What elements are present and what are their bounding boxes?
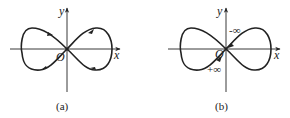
figure-b: y x O -∞ +∞ (b) — [168, 4, 280, 113]
origin-label: O — [215, 47, 224, 61]
caption-a: (a) — [56, 100, 69, 113]
x-axis-label: x — [273, 48, 280, 62]
x-axis-label: x — [113, 48, 120, 62]
figure-a: y x O (a) — [10, 4, 120, 113]
diagram-canvas: y x O (a) y x O -∞ +∞ (b) — [0, 0, 290, 118]
y-axis-label: y — [216, 4, 223, 18]
plus-infinity-label: +∞ — [207, 63, 221, 75]
origin-label: O — [56, 50, 65, 64]
origin-point — [225, 48, 228, 51]
caption-b: (b) — [215, 100, 228, 113]
y-axis-label: y — [58, 4, 65, 18]
origin-point — [65, 47, 68, 50]
minus-infinity-label: -∞ — [229, 24, 241, 36]
